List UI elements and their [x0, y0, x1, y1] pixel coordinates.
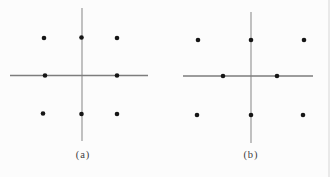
figure-a-point-dot	[79, 112, 84, 117]
figure-b-point-dot	[275, 74, 280, 79]
figure-b-point-dot	[196, 38, 201, 43]
diagram-svg	[0, 0, 330, 177]
figure-a-label: (a)	[61, 149, 105, 160]
figure-canvas: (a) (b)	[0, 0, 330, 177]
figure-b-label: (b)	[229, 149, 273, 160]
figure-b-point-dot	[301, 113, 306, 118]
figure-b-point-dot	[195, 113, 200, 118]
figure-b-point-dot	[221, 74, 226, 79]
figure-a-point-dot	[115, 73, 120, 78]
figure-a-point-dot	[42, 36, 47, 41]
figure-a-point-dot	[115, 112, 120, 117]
figure-a-point-dot	[115, 36, 120, 41]
figure-a-point-dot	[79, 35, 84, 40]
figure-b-point-dot	[249, 113, 254, 118]
figure-a-point-dot	[43, 73, 48, 78]
figure-a-point-dot	[41, 111, 46, 116]
figure-b-point-dot	[302, 38, 307, 43]
figure-b-point-dot	[249, 38, 254, 43]
